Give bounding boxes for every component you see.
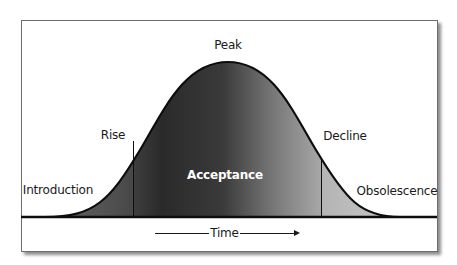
time-axis: Time [155,225,300,241]
time-axis-label: Time [209,226,240,240]
rise-label: Rise [101,128,126,142]
time-axis-line-left [155,233,209,234]
peak-label: Peak [214,38,242,52]
arrow-right-icon [294,230,300,236]
obsolescence-label: Obsolescence [357,184,438,198]
decline-label: Decline [323,129,366,143]
acceptance-label: Acceptance [187,168,263,182]
time-axis-line-right [240,233,294,234]
introduction-label: Introduction [23,183,93,197]
